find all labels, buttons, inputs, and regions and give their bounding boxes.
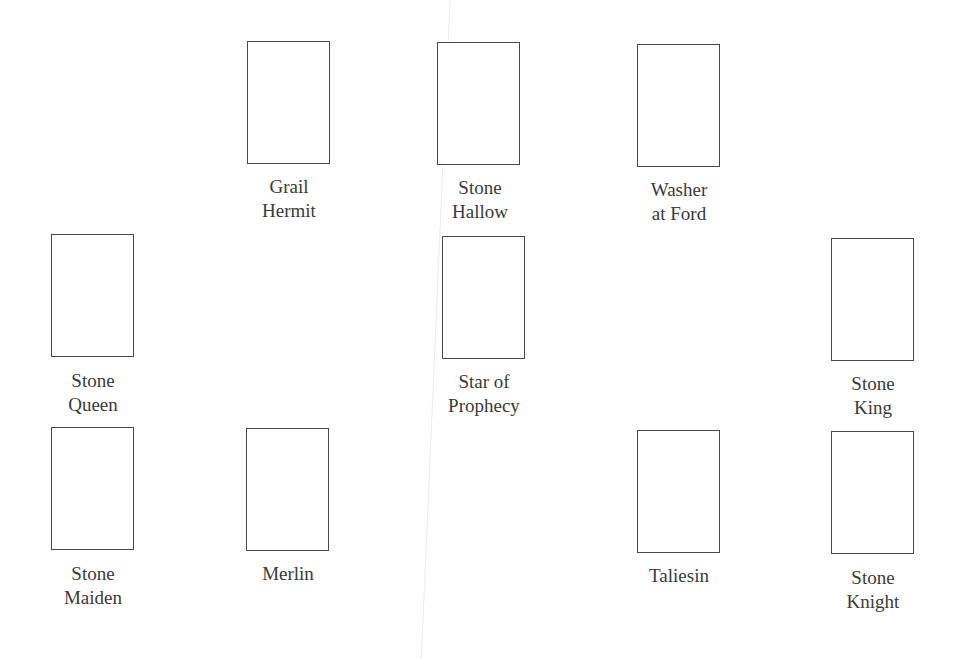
label-line: at Ford bbox=[609, 202, 749, 226]
label-stone-queen: Stone Queen bbox=[23, 369, 163, 417]
label-line: Washer bbox=[609, 178, 749, 202]
label-line: King bbox=[803, 396, 943, 420]
label-line: Star of bbox=[414, 370, 554, 394]
label-stone-maiden: Stone Maiden bbox=[23, 562, 163, 610]
card-slot-grail-hermit bbox=[247, 41, 330, 164]
label-washer-at-ford: Washer at Ford bbox=[609, 178, 749, 226]
card-slot-star-of-prophecy bbox=[442, 236, 525, 359]
label-line: Prophecy bbox=[414, 394, 554, 418]
label-stone-hallow: Stone Hallow bbox=[410, 176, 550, 224]
label-line: Stone bbox=[410, 176, 550, 200]
label-line: Queen bbox=[23, 393, 163, 417]
label-line: Merlin bbox=[218, 562, 358, 586]
label-line: Maiden bbox=[23, 586, 163, 610]
label-line: Stone bbox=[23, 562, 163, 586]
label-stone-king: Stone King bbox=[803, 372, 943, 420]
label-line: Stone bbox=[803, 566, 943, 590]
card-slot-stone-maiden bbox=[51, 427, 134, 550]
card-slot-taliesin bbox=[637, 430, 720, 553]
card-slot-stone-queen bbox=[51, 234, 134, 357]
card-slot-merlin bbox=[246, 428, 329, 551]
label-line: Stone bbox=[803, 372, 943, 396]
label-line: Hallow bbox=[410, 200, 550, 224]
label-line: Taliesin bbox=[609, 564, 749, 588]
card-slot-stone-hallow bbox=[437, 42, 520, 165]
label-grail-hermit: Grail Hermit bbox=[219, 175, 359, 223]
label-line: Knight bbox=[803, 590, 943, 614]
label-line: Hermit bbox=[219, 199, 359, 223]
label-stone-knight: Stone Knight bbox=[803, 566, 943, 614]
label-star-of-prophecy: Star of Prophecy bbox=[414, 370, 554, 418]
card-slot-stone-knight bbox=[831, 431, 914, 554]
label-line: Grail bbox=[219, 175, 359, 199]
label-taliesin: Taliesin bbox=[609, 564, 749, 588]
card-slot-stone-king bbox=[831, 238, 914, 361]
label-line: Stone bbox=[23, 369, 163, 393]
card-slot-washer-at-ford bbox=[637, 44, 720, 167]
label-merlin: Merlin bbox=[218, 562, 358, 586]
